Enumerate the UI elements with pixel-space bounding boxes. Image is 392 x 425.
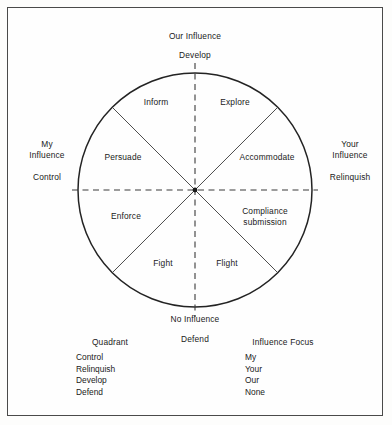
axis-label-right-primary-line2: Influence [332,150,367,162]
axis-label-left-primary-line1: My [41,139,52,151]
sector-label-flight: Flight [216,258,237,270]
axis-label-top-primary: Our Influence [169,31,221,43]
legend-list-influence-focus: My Your Our None [245,352,265,398]
influence-wheel-graphic [0,0,392,425]
axis-label-top-secondary: Develop [179,50,211,62]
legend-item-focus-none: None [245,387,265,399]
legend-item-quadrant-develop: Develop [76,375,115,387]
axis-label-left-primary-line2: Influence [29,150,64,162]
legend-item-focus-my: My [245,352,265,364]
legend-item-focus-your: Your [245,364,265,376]
legend-list-quadrant: Control Relinquish Develop Defend [76,352,115,398]
legend-heading-influence-focus: Influence Focus [252,337,313,349]
legend-item-quadrant-relinquish: Relinquish [76,364,115,376]
axis-label-left-secondary: Control [33,172,61,184]
sector-label-persuade: Persuade [104,152,141,164]
legend-heading-quadrant: Quadrant [92,337,128,349]
sector-label-compliance-line1: Compliance [242,206,288,218]
sector-label-inform: Inform [144,97,169,109]
wheel-center-point [193,188,198,193]
sector-label-explore: Explore [220,97,249,109]
sector-label-accommodate: Accommodate [239,152,294,164]
legend-item-quadrant-control: Control [76,352,115,364]
sector-label-fight: Fight [153,258,172,270]
sector-label-compliance-line2: submission [243,217,286,229]
legend-item-focus-our: Our [245,375,265,387]
axis-label-bottom-secondary: Defend [181,334,209,346]
axis-label-bottom-primary: No Influence [171,314,220,326]
axis-label-right-primary-line1: Your [341,139,359,151]
axis-label-right-secondary: Relinquish [330,172,371,184]
legend-item-quadrant-defend: Defend [76,387,115,399]
sector-label-enforce: Enforce [111,211,141,223]
diagram-page: Our Influence Develop No Influence Defen… [0,0,392,425]
